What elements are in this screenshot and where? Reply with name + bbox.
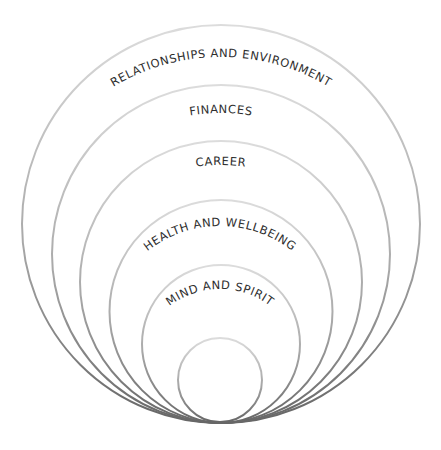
label-relationships-environment: RELATIONSHIPS AND ENVIRONMENT [108,46,335,90]
ring-finances [52,85,390,423]
label-finances: FINANCES [188,102,253,119]
ring-core [178,338,262,422]
label-mind-spirit: MIND AND SPIRIT [163,278,277,309]
ring-health-wellbeing [110,200,333,423]
nested-circles-diagram: RELATIONSHIPS AND ENVIRONMENT FINANCES C… [0,0,441,450]
ring-career [80,141,362,423]
label-health-wellbeing: HEALTH AND WELLBEING [141,215,299,254]
label-career: CAREER [195,154,247,170]
